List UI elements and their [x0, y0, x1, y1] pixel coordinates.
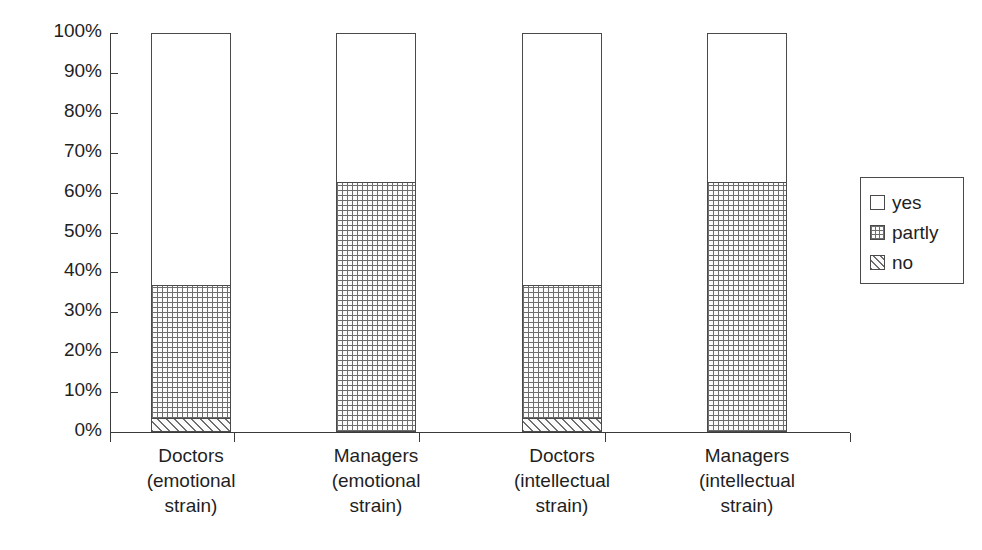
- x-axis-category-label-line: (intellectual: [470, 468, 654, 493]
- y-axis-tick-label: 90%: [64, 61, 102, 80]
- bar-segment-yes: [337, 33, 415, 182]
- legend-item[interactable]: no: [870, 247, 963, 277]
- y-axis-tick-label: 10%: [64, 380, 102, 399]
- x-axis-category-label: Managers(intellectualstrain): [655, 443, 839, 518]
- x-axis-category-label-line: Managers: [655, 443, 839, 468]
- bar-segment-yes: [708, 33, 786, 182]
- legend-item[interactable]: yes: [870, 187, 963, 217]
- y-axis-tick-mark: [110, 33, 118, 34]
- stacked-bar: [522, 33, 602, 432]
- x-axis-separator: [234, 433, 235, 442]
- x-axis-category-label-line: strain): [284, 493, 468, 518]
- y-axis-tick-label: 20%: [64, 340, 102, 359]
- y-axis-tick-label: 80%: [64, 101, 102, 120]
- x-axis-category-label: Managers(emotionalstrain): [284, 443, 468, 518]
- y-axis-tick-label: 50%: [64, 221, 102, 240]
- x-axis-category-label-line: strain): [470, 493, 654, 518]
- x-axis-category-label-line: (emotional: [284, 468, 468, 493]
- y-axis-tick-mark: [110, 272, 118, 273]
- bar-segment-yes: [523, 33, 601, 285]
- x-axis-end-tick: [110, 433, 111, 442]
- legend-item-label: yes: [892, 193, 922, 212]
- x-axis-category-label-line: (emotional: [99, 468, 283, 493]
- stacked-bar: [151, 33, 231, 432]
- y-axis-tick-label: 70%: [64, 141, 102, 160]
- x-axis-category-label-line: Managers: [284, 443, 468, 468]
- legend-item[interactable]: partly: [870, 217, 963, 247]
- bar-segment-no: [523, 418, 601, 431]
- x-axis-category-label-line: strain): [655, 493, 839, 518]
- x-axis-end-tick: [850, 433, 851, 442]
- x-axis-category-label: Doctors(intellectualstrain): [470, 443, 654, 518]
- y-axis-tick-mark: [110, 233, 118, 234]
- x-axis-category-label-line: strain): [99, 493, 283, 518]
- y-axis-tick-label: 0%: [75, 420, 102, 439]
- swatch-grid-icon: [870, 225, 885, 240]
- legend-item-label: partly: [892, 223, 938, 242]
- x-axis-category-label-line: (intellectual: [655, 468, 839, 493]
- bar-segment-partly: [708, 182, 786, 431]
- y-axis-tick-label: 30%: [64, 300, 102, 319]
- x-axis-separator: [419, 433, 420, 442]
- bar-segment-partly: [523, 285, 601, 418]
- y-axis-tick-mark: [110, 312, 118, 313]
- swatch-empty-icon: [870, 195, 885, 210]
- y-axis-tick-label: 40%: [64, 260, 102, 279]
- legend-item-label: no: [892, 253, 913, 272]
- y-axis-tick-mark: [110, 153, 118, 154]
- bar-segment-yes: [152, 33, 230, 285]
- bar-segment-no: [152, 418, 230, 431]
- y-axis-tick-label: 100%: [53, 21, 102, 40]
- chart-legend: yespartlyno: [860, 177, 964, 284]
- x-axis-category-label-line: Doctors: [470, 443, 654, 468]
- stacked-bar-chart: 100%90%80%70%60%50%40%30%20%10%0% Doctor…: [0, 0, 982, 550]
- y-axis-tick-mark: [110, 392, 118, 393]
- stacked-bar: [336, 33, 416, 432]
- stacked-bar: [707, 33, 787, 432]
- x-axis-line: [110, 432, 850, 433]
- y-axis-tick-mark: [110, 113, 118, 114]
- x-axis-category-label: Doctors(emotionalstrain): [99, 443, 283, 518]
- y-axis-tick-label: 60%: [64, 181, 102, 200]
- bar-segment-partly: [337, 182, 415, 431]
- y-axis-tick-mark: [110, 73, 118, 74]
- y-axis-tick-mark: [110, 352, 118, 353]
- swatch-hatch-icon: [870, 255, 885, 270]
- x-axis-category-label-line: Doctors: [99, 443, 283, 468]
- bar-segment-partly: [152, 285, 230, 418]
- y-axis-tick-mark: [110, 193, 118, 194]
- x-axis-separator: [605, 433, 606, 442]
